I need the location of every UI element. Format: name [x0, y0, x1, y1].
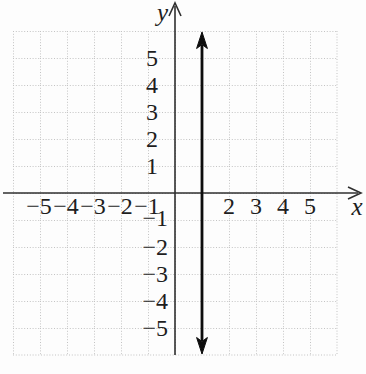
y-tick-label: 3	[146, 99, 158, 125]
y-axis-label: y	[154, 0, 169, 26]
x-tick-label: −5	[26, 193, 52, 219]
y-tick-label: −2	[142, 234, 168, 260]
x-axis-label: x	[350, 193, 362, 220]
x-tick-label: −1	[134, 193, 160, 219]
y-tick-label: −3	[142, 261, 168, 287]
x-tick-label: −3	[80, 193, 106, 219]
x-tick-label: −2	[107, 193, 133, 219]
x-tick-label: 2	[223, 193, 235, 219]
y-tick-label: 4	[146, 72, 158, 98]
y-tick-label: −5	[142, 315, 168, 341]
x-tick-label: 5	[304, 193, 316, 219]
y-tick-label: −4	[142, 288, 168, 314]
x-tick-label: 3	[250, 193, 262, 219]
y-tick-label: 1	[146, 153, 158, 179]
y-tick-label: 5	[146, 45, 158, 71]
y-tick-label: 2	[146, 126, 158, 152]
coordinate-plane-figure: y x 5 4 3 2 1 −1 −2 −3 −4 −5 −5 −4 −3 −2…	[0, 0, 366, 374]
x-tick-label: −4	[53, 193, 79, 219]
x-tick-label: 4	[277, 193, 289, 219]
graph-canvas: y x 5 4 3 2 1 −1 −2 −3 −4 −5 −5 −4 −3 −2…	[0, 0, 366, 374]
